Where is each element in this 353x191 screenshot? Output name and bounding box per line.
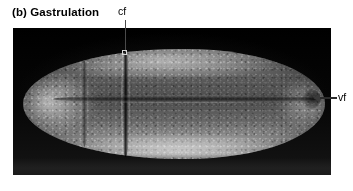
ventral-furrow	[53, 95, 321, 103]
plate-bottom-band	[13, 158, 331, 175]
micrograph-panel	[13, 28, 331, 175]
anterior-fold	[81, 61, 88, 147]
annotation-arrow-head-vf	[313, 94, 320, 102]
annotation-marker-cf	[122, 50, 127, 55]
annotation-label-cf: cf	[118, 5, 126, 18]
embryo-specimen	[23, 49, 325, 159]
annotation-label-vf: vf	[338, 91, 346, 104]
embryo-cell-texture-fine	[23, 49, 325, 159]
annotation-arrow-shaft-vf	[319, 97, 337, 99]
figure-caption: (b) Gastrulation	[12, 5, 99, 19]
cephalic-furrow	[121, 51, 130, 157]
annotation-leader-cf	[125, 20, 126, 52]
figure-root: (b) Gastrulation cf vf	[0, 0, 353, 191]
